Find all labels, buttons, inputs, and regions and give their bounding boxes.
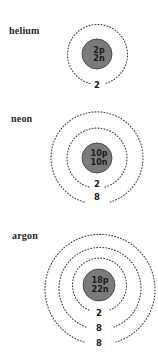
shell-electron-count: 8 bbox=[96, 323, 102, 333]
neutrons-label: 2n bbox=[93, 54, 105, 63]
atom-argon: argon 18p 22n 2 8 8 bbox=[0, 210, 158, 362]
atom-helium: helium 2p 2n 2 bbox=[0, 0, 158, 100]
neutrons-label: 22n bbox=[92, 285, 109, 294]
shell-electron-count: 8 bbox=[96, 338, 102, 348]
atom-neon: neon 10p 10n 2 8 bbox=[0, 100, 158, 210]
helium-diagram: 2p 2n 2 bbox=[0, 0, 158, 100]
shell-electron-count: 8 bbox=[94, 192, 100, 202]
neon-diagram: 10p 10n 2 8 bbox=[0, 100, 158, 210]
protons-label: 18p bbox=[92, 276, 109, 285]
argon-diagram: 18p 22n 2 8 8 bbox=[0, 210, 158, 362]
neutrons-label: 10n bbox=[91, 158, 108, 167]
shell-electron-count: 2 bbox=[94, 80, 100, 90]
shell-electron-count: 2 bbox=[94, 179, 100, 189]
shell-electron-count: 2 bbox=[96, 308, 102, 318]
